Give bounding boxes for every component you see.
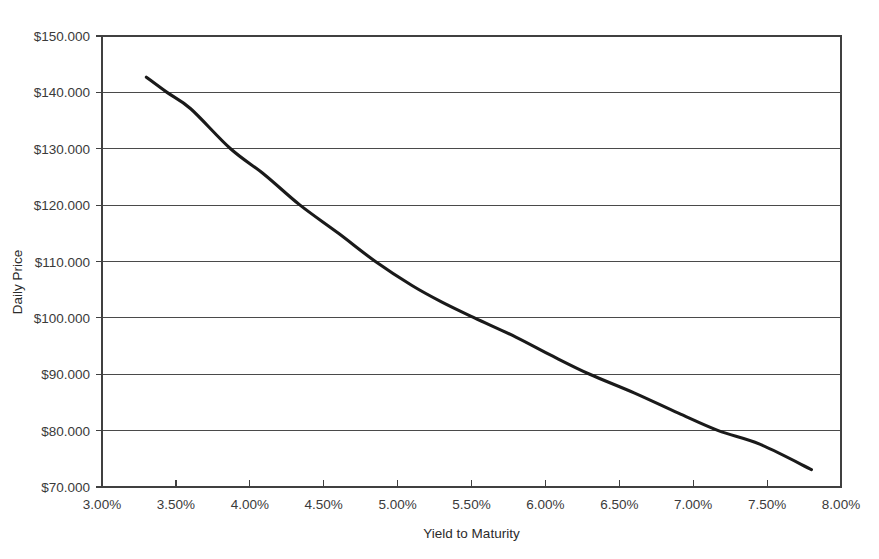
y-tick-label: $120.000 xyxy=(34,198,90,213)
y-tick-label: $70.000 xyxy=(41,480,90,495)
x-tick-label: 8.00% xyxy=(822,497,860,512)
x-tick-label: 7.00% xyxy=(674,497,712,512)
x-tick-label: 4.00% xyxy=(231,497,269,512)
x-tick-label: 4.50% xyxy=(305,497,343,512)
x-axis-title: Yield to Maturity xyxy=(423,526,520,541)
chart-background xyxy=(0,0,879,559)
x-tick-label: 5.00% xyxy=(378,497,416,512)
y-axis-title: Daily Price xyxy=(10,250,25,315)
y-tick-label: $130.000 xyxy=(34,142,90,157)
x-tick-label: 7.50% xyxy=(748,497,786,512)
chart-container: $70.000$80.000$90.000$100.000$110.000$12… xyxy=(0,0,879,559)
y-tick-label: $90.000 xyxy=(41,367,90,382)
y-tick-label: $140.000 xyxy=(34,85,90,100)
x-tick-label: 3.00% xyxy=(83,497,121,512)
y-tick-label: $80.000 xyxy=(41,424,90,439)
x-tick-label: 3.50% xyxy=(157,497,195,512)
price-yield-line-chart: $70.000$80.000$90.000$100.000$110.000$12… xyxy=(0,0,879,559)
x-tick-label: 6.50% xyxy=(600,497,638,512)
y-tick-label: $150.000 xyxy=(34,29,90,44)
y-tick-label: $100.000 xyxy=(34,311,90,326)
x-tick-label: 5.50% xyxy=(452,497,490,512)
y-axis-tick-labels: $70.000$80.000$90.000$100.000$110.000$12… xyxy=(34,29,90,495)
y-tick-label: $110.000 xyxy=(35,255,90,270)
x-tick-label: 6.00% xyxy=(526,497,564,512)
